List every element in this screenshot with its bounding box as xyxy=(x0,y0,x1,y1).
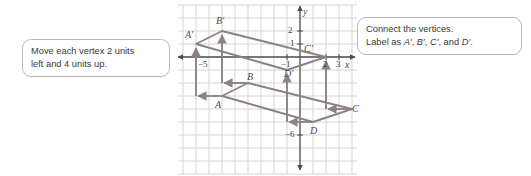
callout-move-vertices: Move each vertex 2 units left and 4 unit… xyxy=(22,39,170,77)
callout-right-line2: Label as A′, B′, C′, and D′. xyxy=(366,36,514,49)
callout-right-label-a: A′ xyxy=(404,37,412,47)
y-tick-label-2: 2 xyxy=(288,25,293,35)
callout-right-prefix: Label as xyxy=(366,37,404,47)
callout-right-line1: Connect the vertices. xyxy=(366,23,514,36)
x-tick-label--5: −5 xyxy=(198,59,208,69)
callout-left-line2: left and 4 units up. xyxy=(31,58,162,71)
y-tick-label-1: 1 xyxy=(290,38,295,48)
vertex-label-d-prime: D′ xyxy=(284,68,293,79)
translation-diagram: −5 −1 2 3 2 1 −6 x y A′ B′ C′ D′ A B C D… xyxy=(0,0,531,176)
callout-right-label-d: D′ xyxy=(462,37,470,47)
coordinate-grid xyxy=(178,5,357,174)
callout-right-end: . xyxy=(470,37,473,47)
vertex-label-b-prime: B′ xyxy=(216,15,224,26)
callout-left-line1: Move each vertex 2 units xyxy=(31,45,162,58)
y-tick-label--6: −6 xyxy=(285,129,295,139)
callout-right-label-b: B′ xyxy=(417,37,425,47)
x-axis-label: x xyxy=(345,59,349,70)
x-tick-label-2: 2 xyxy=(323,59,328,69)
vertex-label-a-prime: A′ xyxy=(185,29,193,40)
callout-right-and: , and xyxy=(438,37,461,47)
vertex-label-d: D xyxy=(310,125,317,136)
vertex-label-c: C xyxy=(352,103,359,114)
vertex-label-b: B xyxy=(247,71,253,82)
vertex-label-a: A xyxy=(215,99,221,110)
y-axis-label: y xyxy=(303,6,307,17)
x-tick-label-3: 3 xyxy=(336,59,341,69)
callout-connect-vertices: Connect the vertices. Label as A′, B′, C… xyxy=(357,17,522,55)
vertex-label-c-prime: C′ xyxy=(304,43,313,54)
